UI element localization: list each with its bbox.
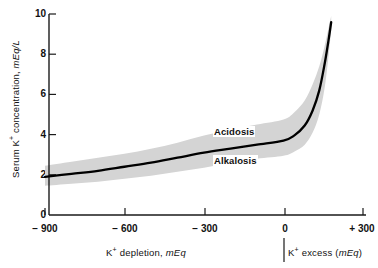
x-axis-ticks bbox=[45, 208, 363, 215]
plot-canvas bbox=[0, 0, 378, 268]
chart-figure: Serum K+ concentration, mEq/L 10 8 6 4 2… bbox=[0, 0, 378, 268]
annotation-acidosis: Acidosis bbox=[213, 126, 255, 137]
reference-band bbox=[45, 16, 331, 186]
y-axis-ticks bbox=[49, 14, 56, 175]
annotation-alkalosis: Alkalosis bbox=[213, 155, 258, 166]
